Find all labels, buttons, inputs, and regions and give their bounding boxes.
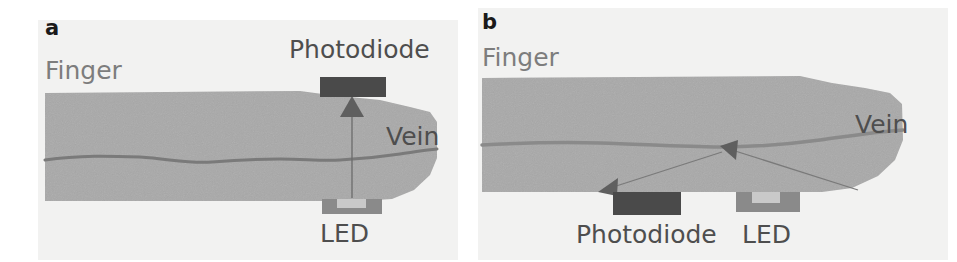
led-notch-b [752,192,780,203]
figure-root: a Finger Photodiode Vein LED [0,0,957,262]
panel-a-letter: a [45,18,59,39]
panel-a-finger-label: Finger [45,58,122,83]
panel-b-photodiode-label: Photodiode [576,222,717,247]
photodiode-shape-b [613,192,681,215]
panel-a-led-label: LED [320,221,369,246]
panel-a-vein-label: Vein [386,124,439,149]
finger-shape-a [45,91,437,201]
panel-b: b Finger Vein Photodiode LED [470,0,957,262]
led-notch-a [337,199,366,208]
panel-a: a Finger Photodiode Vein LED [0,0,470,262]
finger-shape-b [482,76,903,192]
photodiode-shape-a [320,77,386,97]
panel-b-vein-label: Vein [855,112,908,137]
panel-b-led-label: LED [742,222,791,247]
panel-b-finger-label: Finger [482,45,559,70]
panel-a-photodiode-label: Photodiode [289,37,430,62]
panel-b-letter: b [482,12,497,33]
